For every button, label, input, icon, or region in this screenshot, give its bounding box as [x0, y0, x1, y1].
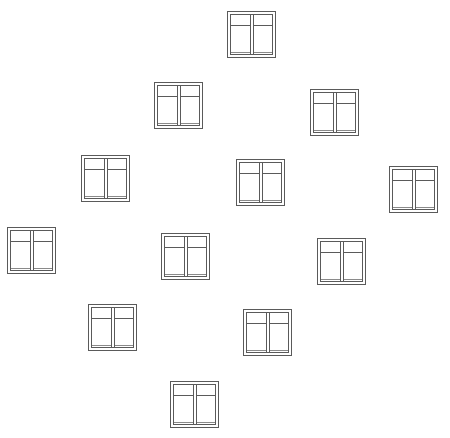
window-icon-9 [317, 238, 366, 285]
window-sill-line [108, 196, 127, 197]
window-frame [157, 85, 200, 126]
window-sill-line [263, 200, 282, 201]
window-frame [320, 241, 363, 282]
window-icon-6 [389, 166, 438, 213]
window-transom-bar [34, 241, 53, 242]
window-transom-bar [115, 318, 134, 319]
window-right-pane [114, 308, 134, 347]
window-sill-line [254, 52, 273, 53]
window-transom-bar [158, 96, 177, 97]
window-sill-line [321, 279, 340, 280]
window-icon-3 [310, 89, 359, 136]
window-transom-bar [85, 169, 104, 170]
window-left-pane [231, 15, 251, 54]
window-transom-bar [188, 247, 207, 248]
window-sill-line [165, 274, 184, 275]
window-sill-line [115, 345, 134, 346]
window-sill-line [85, 196, 104, 197]
window-right-pane [415, 170, 435, 209]
window-sill-line [240, 200, 259, 201]
window-left-pane [174, 385, 194, 424]
window-icon-1 [227, 11, 276, 58]
window-icon-5 [236, 159, 285, 206]
window-transom-bar [263, 173, 282, 174]
window-left-pane [158, 86, 178, 125]
window-frame [84, 158, 127, 199]
window-icon-8 [161, 233, 210, 280]
window-right-pane [343, 242, 363, 281]
window-left-pane [92, 308, 112, 347]
window-transom-bar [11, 241, 30, 242]
window-right-pane [180, 86, 200, 125]
window-transom-bar [165, 247, 184, 248]
window-transom-bar [108, 169, 127, 170]
window-icon-12 [170, 381, 219, 428]
window-sill-line [174, 422, 193, 423]
window-icon-2 [154, 82, 203, 129]
window-left-pane [321, 242, 341, 281]
window-sill-line [344, 279, 363, 280]
window-left-pane [247, 313, 267, 352]
window-left-pane [240, 163, 260, 202]
window-sill-line [393, 207, 412, 208]
window-frame [173, 384, 216, 425]
window-transom-bar [240, 173, 259, 174]
window-sill-line [314, 130, 333, 131]
window-transom-bar [321, 252, 340, 253]
window-icon-11 [243, 309, 292, 356]
window-left-pane [165, 237, 185, 276]
window-right-pane [262, 163, 282, 202]
window-right-pane [269, 313, 289, 352]
window-sill-line [188, 274, 207, 275]
window-frame [91, 307, 134, 348]
window-transom-bar [337, 103, 356, 104]
window-sill-line [158, 123, 177, 124]
window-frame [230, 14, 273, 55]
window-transom-bar [314, 103, 333, 104]
window-right-pane [336, 93, 356, 132]
window-sill-line [197, 422, 216, 423]
window-right-pane [107, 159, 127, 198]
window-sill-line [247, 350, 266, 351]
window-left-pane [314, 93, 334, 132]
window-left-pane [85, 159, 105, 198]
window-sill-line [92, 345, 111, 346]
window-frame [246, 312, 289, 353]
window-transom-bar [231, 25, 250, 26]
diagram-canvas [0, 0, 450, 438]
window-transom-bar [197, 395, 216, 396]
window-frame [313, 92, 356, 133]
window-right-pane [33, 231, 53, 270]
window-icon-4 [81, 155, 130, 202]
window-transom-bar [181, 96, 200, 97]
window-sill-line [34, 268, 53, 269]
window-transom-bar [92, 318, 111, 319]
window-sill-line [181, 123, 200, 124]
window-icon-10 [88, 304, 137, 351]
window-icon-7 [7, 227, 56, 274]
window-transom-bar [393, 180, 412, 181]
window-frame [10, 230, 53, 271]
window-sill-line [231, 52, 250, 53]
window-transom-bar [270, 323, 289, 324]
window-transom-bar [247, 323, 266, 324]
window-right-pane [253, 15, 273, 54]
window-frame [392, 169, 435, 210]
window-transom-bar [344, 252, 363, 253]
window-frame [164, 236, 207, 277]
window-right-pane [196, 385, 216, 424]
window-transom-bar [174, 395, 193, 396]
window-sill-line [416, 207, 435, 208]
window-frame [239, 162, 282, 203]
window-right-pane [187, 237, 207, 276]
window-sill-line [337, 130, 356, 131]
window-sill-line [270, 350, 289, 351]
window-left-pane [11, 231, 31, 270]
window-left-pane [393, 170, 413, 209]
window-transom-bar [416, 180, 435, 181]
window-transom-bar [254, 25, 273, 26]
window-sill-line [11, 268, 30, 269]
